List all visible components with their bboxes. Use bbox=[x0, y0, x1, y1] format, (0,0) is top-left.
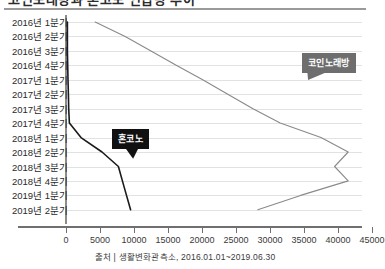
source-note: 출처 | 생활변화관측소, 2016.01.01~2019.06.30 bbox=[0, 250, 370, 262]
series-line-혼코노 bbox=[67, 22, 130, 210]
series-line-코인노래방 bbox=[95, 22, 348, 210]
x-axis-tick bbox=[372, 227, 373, 233]
